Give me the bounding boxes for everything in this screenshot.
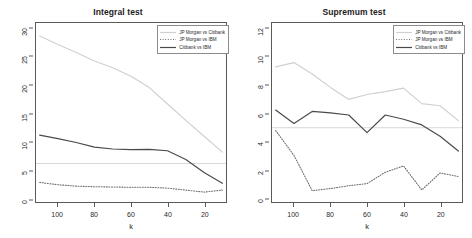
legend-item-label: Citibank vs IBM [415,44,447,51]
legend-line-swatch-jpm_citi [160,29,176,36]
x-tick-label: 100 [51,211,63,218]
y-tick-mark [29,56,33,57]
panel-supremum-test: Supremum test 024681012 10080604020 k JP… [236,0,472,238]
y-tick-mark [265,84,269,85]
y-tick-label: 4 [258,142,265,146]
legend-item-label: JP Morgan vs IBM [179,36,216,43]
x-tick-mark [94,203,95,207]
figure-two-panel-plot: Integral test 051015202530 10080604020 k… [0,0,472,238]
x-tick-mark [404,203,405,207]
x-tick-label: 20 [437,211,445,218]
x-axis-title-right: k [271,222,463,231]
y-tick-mark [265,27,269,28]
y-tick-mark [265,113,269,114]
legend-line-swatch-jpm_ibm [160,36,176,43]
legend-line-swatch-jpm_ibm [396,36,412,43]
legend-item-label: JP Morgan vs IBM [415,36,452,43]
y-tick-label: 0 [258,199,265,203]
legend-item: JP Morgan vs Citibank [396,29,461,36]
y-tick-label: 10 [22,142,29,150]
x-tick-mark [293,203,294,207]
x-tick-mark [168,203,169,207]
legend-line-swatch-citi_ibm [160,44,176,51]
x-tick-label: 60 [127,211,135,218]
series-line-jpm_ibm [276,131,459,191]
y-tick-label: 20 [22,85,29,93]
x-tick-label: 60 [363,211,371,218]
y-tick-label: 10 [258,56,265,64]
y-tick-label: 30 [22,28,29,36]
legend-item: Citibank vs IBM [160,44,225,51]
x-tick-label: 80 [326,211,334,218]
y-tick-mark [265,142,269,143]
y-tick-mark [29,142,33,143]
legend-line-swatch-jpm_citi [396,29,412,36]
legend-right: JP Morgan vs CitibankJP Morgan vs IBMCit… [393,25,465,54]
series-line-jpm_ibm [40,182,223,192]
x-tick-label: 100 [287,211,299,218]
y-tick-label: 15 [22,114,29,122]
y-axis-left: 051015202530 [0,22,33,203]
x-tick-mark [367,203,368,207]
y-tick-mark [265,170,269,171]
legend-item-label: Citibank vs IBM [179,44,211,51]
legend-left: JP Morgan vs CitibankJP Morgan vs IBMCit… [157,25,229,54]
x-axis-title-left: k [35,222,227,231]
x-tick-label: 20 [201,211,209,218]
series-line-jpm_citi [276,63,459,121]
x-tick-mark [131,203,132,207]
y-tick-mark [29,199,33,200]
y-tick-mark [29,27,33,28]
y-axis-right: 024681012 [236,22,269,203]
x-tick-label: 80 [90,211,98,218]
y-tick-label: 0 [22,200,29,204]
y-tick-label: 8 [258,85,265,89]
x-tick-mark [57,203,58,207]
legend-item-label: JP Morgan vs Citibank [179,29,225,36]
series-line-citi_ibm [40,135,223,183]
y-tick-mark [29,113,33,114]
y-tick-mark [265,199,269,200]
x-tick-mark [205,203,206,207]
x-tick-label: 40 [400,211,408,218]
series-line-citi_ibm [276,110,459,151]
panel-title-right: Supremum test [236,7,472,17]
x-tick-mark [330,203,331,207]
y-tick-mark [29,85,33,86]
y-tick-label: 25 [22,56,29,64]
y-tick-label: 5 [22,171,29,175]
legend-item: JP Morgan vs IBM [160,36,225,43]
panel-integral-test: Integral test 051015202530 10080604020 k… [0,0,236,238]
y-tick-label: 12 [258,28,265,36]
x-tick-label: 40 [164,211,172,218]
legend-item: JP Morgan vs IBM [396,36,461,43]
x-tick-mark [441,203,442,207]
y-tick-label: 2 [258,171,265,175]
legend-item-label: JP Morgan vs Citibank [415,29,461,36]
y-tick-mark [265,56,269,57]
y-tick-label: 6 [258,114,265,118]
legend-line-swatch-citi_ibm [396,44,412,51]
y-tick-mark [29,170,33,171]
panel-title-left: Integral test [0,7,236,17]
legend-item: Citibank vs IBM [396,44,461,51]
legend-item: JP Morgan vs Citibank [160,29,225,36]
